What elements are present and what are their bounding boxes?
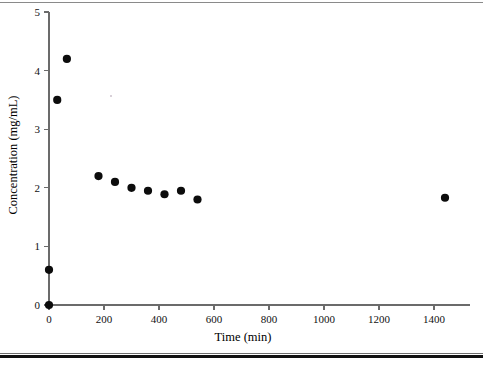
y-axis-tick-label: 0 (35, 299, 41, 311)
ticks-layer (44, 12, 434, 310)
x-axis-tick-label: 200 (96, 313, 113, 325)
plot-area: 0123450200400600800100012001400 Time (mi… (0, 0, 483, 350)
data-point (160, 190, 168, 198)
x-axis-tick-label: 0 (46, 313, 52, 325)
data-point (177, 187, 185, 195)
x-axis-tick-label: 1000 (313, 313, 336, 325)
x-axis-tick-label: 600 (206, 313, 223, 325)
data-point (127, 184, 135, 192)
data-point (45, 301, 53, 309)
y-axis-tick-label: 1 (35, 240, 41, 252)
data-point (94, 172, 102, 180)
data-point (193, 195, 201, 203)
scan-artifact-speck (110, 95, 112, 97)
y-axis-tick-label: 5 (35, 6, 41, 18)
y-axis-title: Concentration (mg/mL) (6, 95, 20, 214)
y-axis-tick-label: 2 (35, 182, 41, 194)
data-point (144, 187, 152, 195)
figure-container: 0123450200400600800100012001400 Time (mi… (0, 0, 483, 367)
x-axis-tick-label: 400 (151, 313, 168, 325)
data-points-layer (45, 55, 449, 309)
data-point (45, 266, 53, 274)
y-axis-tick-label: 3 (35, 123, 41, 135)
tick-labels-layer: 0123450200400600800100012001400 (35, 6, 446, 325)
data-point (111, 178, 119, 186)
data-point (53, 96, 61, 104)
y-axis-tick-label: 4 (35, 65, 41, 77)
x-axis-tick-label: 1200 (368, 313, 391, 325)
scatter-chart: 0123450200400600800100012001400 Time (mi… (0, 0, 483, 350)
data-point (441, 194, 449, 202)
data-point (63, 55, 71, 63)
x-axis-tick-label: 1400 (423, 313, 446, 325)
axes-layer (49, 12, 470, 305)
bottom-rule-thick (0, 355, 483, 358)
bottom-rule-thin (0, 353, 483, 354)
x-axis-tick-label: 800 (261, 313, 278, 325)
x-axis-title: Time (min) (215, 330, 272, 344)
